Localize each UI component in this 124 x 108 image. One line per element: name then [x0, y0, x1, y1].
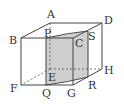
label-s: S [88, 30, 96, 43]
label-q: Q [42, 87, 51, 100]
label-c: C [75, 37, 83, 50]
label-p: P [44, 27, 52, 40]
label-r: R [88, 79, 97, 92]
label-f: F [10, 82, 18, 95]
label-a: A [46, 8, 56, 21]
label-g: G [67, 87, 76, 100]
label-d: D [104, 14, 113, 27]
label-h: H [104, 64, 114, 77]
label-e: E [48, 71, 56, 84]
cube-diagram: A D B P C S E H F Q G R [0, 0, 124, 108]
label-b: B [9, 34, 17, 47]
